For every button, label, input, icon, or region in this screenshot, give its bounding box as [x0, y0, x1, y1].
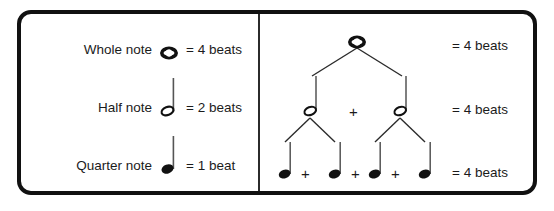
legend-row-half-note: Half note = 2 beats: [21, 86, 258, 132]
whole-note-icon: [157, 28, 183, 74]
half-note-icon: [157, 70, 183, 132]
legend-label-quarter-note: Quarter note: [76, 158, 152, 173]
tree-quarter-note-icon-3: [363, 140, 387, 186]
tree-plus-level3-1: +: [301, 166, 310, 181]
tree-plus-level2-1: +: [349, 104, 358, 119]
legend-value-quarter-note: = 1 beat: [186, 158, 235, 173]
legend-row-quarter-note: Quarter note = 1 beat: [21, 144, 258, 190]
quarter-note-icon: [157, 128, 183, 190]
music-note-values-figure: Whole note = 4 beats Half note: [17, 10, 537, 195]
tree-quarter-note-icon-1: [273, 140, 297, 186]
tree-half-note-icon-1: [298, 74, 322, 122]
legend-label-whole-note: Whole note: [84, 42, 152, 57]
tree-plus-level3-3: +: [391, 166, 400, 181]
tree-beats-label-whole: = 4 beats: [452, 38, 508, 53]
legend-value-half-note: = 2 beats: [186, 100, 242, 115]
tree-plus-level3-2: +: [351, 166, 360, 181]
tree-beats-label-quarter: = 4 beats: [452, 165, 508, 180]
tree-nodes: + +: [260, 14, 445, 191]
tree-half-note-icon-2: [388, 74, 412, 122]
legend-value-whole-note: = 4 beats: [186, 42, 242, 57]
tree-beats-label-half: = 4 beats: [452, 102, 508, 117]
note-subdivision-tree-panel: + +: [260, 14, 539, 191]
legend-label-half-note: Half note: [98, 100, 152, 115]
legend-row-whole-note: Whole note = 4 beats: [21, 28, 258, 74]
tree-quarter-note-icon-2: [323, 140, 347, 186]
tree-quarter-note-icon-4: [413, 140, 437, 186]
tree-whole-note-icon: [345, 28, 369, 68]
note-value-legend-panel: Whole note = 4 beats Half note: [21, 14, 258, 191]
